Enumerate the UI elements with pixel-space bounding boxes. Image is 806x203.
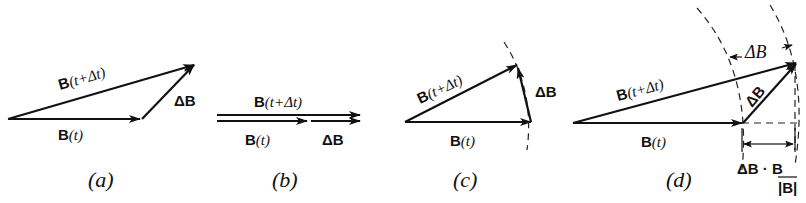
label-delta-b: ΔB (535, 83, 557, 100)
panel-c: B(t+Δt) B(t) ΔB (c) (405, 42, 557, 192)
label-delta-b: ΔB (174, 92, 196, 109)
label-b-t-dt: B(t+Δt) (414, 71, 465, 108)
label-projection-numerator: ΔB · B (737, 160, 783, 177)
label-b-t-dt: B(t+Δt) (254, 93, 302, 111)
label-delta-b-magnitude: ΔB (744, 42, 767, 62)
label-b-t: B(t) (58, 126, 83, 144)
panel-a: B(t+Δt) B(t) ΔB (a) (8, 63, 196, 192)
label-delta-b: ΔB (322, 131, 344, 148)
caption-c: (c) (453, 167, 477, 192)
caption-d: (d) (666, 167, 692, 192)
label-b-t-dt: B(t+Δt) (56, 63, 107, 94)
label-delta-b: ΔB (741, 82, 768, 110)
label-projection-denominator: |B| (778, 179, 797, 196)
vector-diagram: B(t+Δt) B(t) ΔB (a) B(t+Δt) B(t) ΔB (b) … (0, 0, 806, 203)
label-b-t: B(t) (450, 132, 475, 150)
caption-b: (b) (272, 167, 298, 192)
label-b-t: B(t) (641, 133, 666, 151)
vector-delta-b (518, 68, 531, 122)
label-b-t: B(t) (245, 131, 270, 149)
dim-arrow-right (782, 45, 792, 48)
caption-a: (a) (88, 167, 114, 192)
dashed-arc-inner (697, 8, 744, 170)
panel-d: ΔB ΔB · B |B| B(t+Δt) B(t) ΔB (d) (573, 5, 799, 196)
panel-b: B(t+Δt) B(t) ΔB (b) (217, 93, 360, 192)
